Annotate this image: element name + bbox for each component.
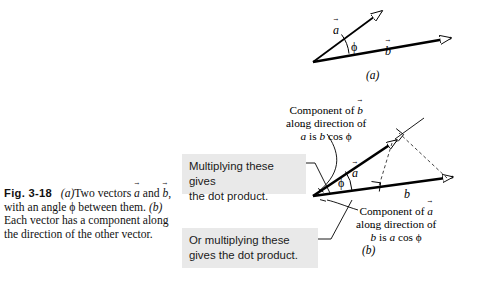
annotation-component-of-b-line3: a is b cos ϕ [286,129,366,143]
callout-top-line1: Multiplying these gives [189,159,299,189]
caption-marker-b: (b) [149,201,163,214]
panel-b-label-vector-a: a [352,165,358,181]
annotation-component-of-a-line2: along direction of [356,218,436,231]
annotation-component-of-b-line1: Component of b [286,103,366,117]
figure-number: Fig. 3-18 [4,187,52,199]
panel-b-label-vector-b: b [404,186,410,202]
callout-bottom-line1: Or multiplying these [189,233,311,248]
callout-top-line2: the dot product. [189,189,299,204]
annotation-component-of-a: Component of a along direction of b is a… [356,204,436,244]
annotation-component-of-a-line3: b is a cos ϕ [356,230,436,244]
leader-component-a [327,200,358,210]
panel-b-caption-label: (b) [362,244,375,256]
vec-b-inline-2: b [371,230,377,244]
vec-b-caption: b [162,186,168,201]
vec-a-caption: a [134,186,140,201]
panel-a-label-angle: ϕ [351,40,357,55]
vec-b-glyph: b [385,43,391,59]
leader-lines [306,134,358,239]
panel-b-label-angle: ϕ [338,176,344,191]
callout-or-multiplying-these: Or multiplying these gives the dot produ… [182,228,318,268]
caption-marker-a: (a) [61,187,75,200]
panel-a-label-vector-a: a [333,22,339,38]
vec-a-inline-1: a [301,129,307,143]
component-a-tick [320,200,326,202]
panel-b-vector-a-extension [395,118,424,139]
vec-a-glyph-b: a [352,165,358,181]
annotation-component-of-b-line2: along direction of [286,117,366,130]
annotation-component-of-a-line1: Component of a [356,204,436,218]
vec-b-glyph-b: b [404,186,410,202]
annotation-component-of-b: Component of b along direction of a is b… [286,103,366,143]
callout-bottom-line2: gives the dot product. [189,248,311,263]
vec-a-inline-2: a [427,204,433,218]
panel-a-caption-label: (a) [366,69,379,81]
vec-a-glyph: a [333,22,339,38]
panel-a-vector-a [313,11,382,62]
projection-dashed-b-onto-a [399,133,447,178]
vec-b-inline-1: b [357,103,363,117]
panel-a-vector-b [313,38,451,62]
panel-b-vector-b [313,177,453,196]
panel-a-label-vector-b: b [385,43,391,59]
figure-caption: Fig. 3-18 (a)Two vectors a and b, with a… [4,186,176,241]
callout-multiplying-these: Multiplying these gives the dot product. [182,154,306,194]
figure-page: a b ϕ (a) a b ϕ (b) Component of b along… [0,0,484,291]
